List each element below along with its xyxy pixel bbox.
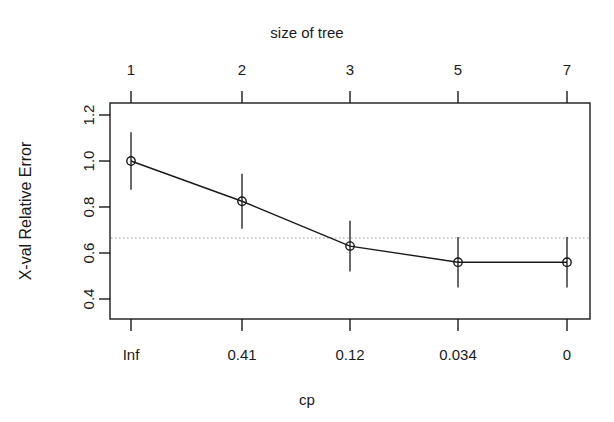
series-polyline: [131, 161, 567, 262]
error-bars: [131, 132, 567, 287]
data-markers: [127, 157, 571, 267]
plot-area: [0, 0, 614, 422]
plot-frame-rect: [110, 103, 590, 319]
plotcp-chart-figure: size of tree cp X-val Relative Error 123…: [0, 0, 614, 422]
plot-frame: [110, 103, 590, 319]
top-axis-ticks: [131, 91, 567, 103]
y-axis-ticks: [99, 115, 110, 299]
x-axis-ticks: [131, 319, 567, 331]
data-line: [131, 161, 567, 262]
